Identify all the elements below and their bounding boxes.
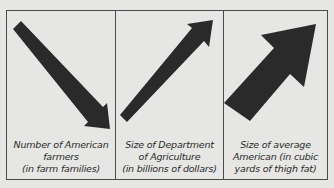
- thick-arrow-up-right-icon: [224, 11, 327, 136]
- panel-farmers: Number of American farmers (in farm fami…: [7, 11, 116, 179]
- caption-line: Size of Department: [116, 139, 223, 151]
- panel-usda: Size of Department of Agriculture (in bi…: [116, 11, 224, 179]
- caption-line: (in farm families): [7, 163, 115, 175]
- caption-line: Size of average: [224, 139, 327, 151]
- comparison-graphic: Number of American farmers (in farm fami…: [6, 10, 328, 180]
- panel-thigh-fat: Size of average American (in cubic yards…: [224, 11, 327, 179]
- caption-line: Number of American: [7, 139, 115, 151]
- caption-line: yards of thigh fat): [224, 163, 327, 175]
- caption-line: farmers: [7, 151, 115, 163]
- caption-thigh-fat: Size of average American (in cubic yards…: [224, 139, 327, 175]
- caption-farmers: Number of American farmers (in farm fami…: [7, 139, 115, 175]
- caption-usda: Size of Department of Agriculture (in bi…: [116, 139, 223, 175]
- arrow-up-right-icon: [116, 11, 224, 136]
- caption-line: of Agriculture: [116, 151, 223, 163]
- caption-line: American (in cubic: [224, 151, 327, 163]
- caption-line: (in billions of dollars): [116, 163, 223, 175]
- arrow-down-right-icon: [7, 11, 116, 136]
